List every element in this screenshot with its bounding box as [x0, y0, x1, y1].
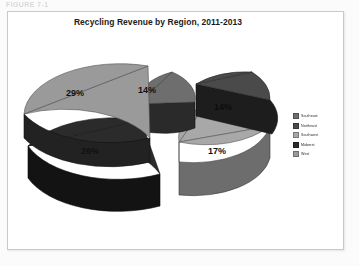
chart-legend: Southeast Northeast Southwest Midwest We…: [293, 112, 337, 160]
legend-label: Southwest: [301, 133, 318, 137]
legend-label: Midwest: [301, 143, 315, 147]
legend-label: West: [301, 152, 309, 156]
legend-label: Southeast: [301, 114, 318, 118]
chart-title: Recycling Revenue by Region, 2011-2013: [8, 17, 308, 27]
pie-svg: 14% 14% 17% 26% 29%: [20, 38, 298, 243]
legend-swatch-icon: [293, 142, 299, 148]
legend-item-west[interactable]: West: [293, 150, 337, 158]
legend-label: Northeast: [301, 124, 317, 128]
pie-plot-area: 14% 14% 17% 26% 29%: [20, 38, 298, 243]
legend-swatch-icon: [293, 123, 299, 129]
legend-item-northeast[interactable]: Northeast: [293, 122, 337, 130]
legend-swatch-icon: [293, 151, 299, 157]
slice-label-west: 29%: [66, 88, 84, 98]
chart-frame: Recycling Revenue by Region, 2011-2013: [7, 11, 344, 250]
legend-item-southeast[interactable]: Southeast: [293, 112, 337, 120]
legend-swatch-icon: [293, 113, 299, 119]
legend-item-midwest[interactable]: Midwest: [293, 141, 337, 149]
slice-label-midwest: 26%: [81, 146, 99, 156]
slice-label-southwest: 17%: [208, 146, 226, 156]
legend-swatch-icon: [293, 132, 299, 138]
slice-label-southeast: 14%: [138, 85, 156, 95]
figure-caption: FIGURE 7-1: [6, 1, 49, 8]
slice-label-northeast: 14%: [214, 102, 232, 112]
pie-chart: 14% 14% 17% 26% 29%: [20, 38, 298, 243]
legend-item-southwest[interactable]: Southwest: [293, 131, 337, 139]
